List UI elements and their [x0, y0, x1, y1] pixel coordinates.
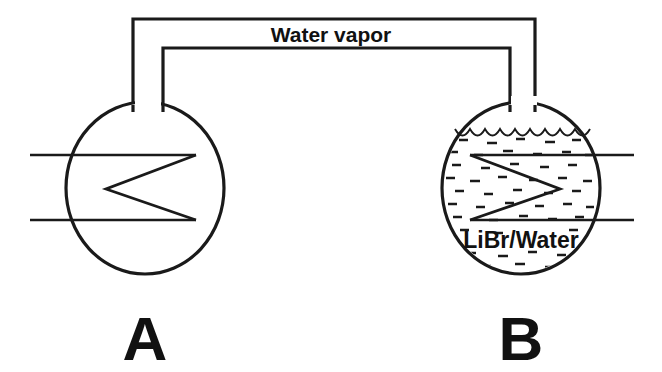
vessel-a-label: A	[123, 304, 168, 372]
vessel-b-label: B	[499, 304, 544, 372]
vapor-tube-label: Water vapor	[271, 23, 392, 46]
solution-label: LiBr/Water	[463, 227, 578, 253]
vessel-a	[30, 96, 224, 274]
vessel-a-bulb	[66, 102, 224, 274]
vapor-tube-inner-wall	[163, 48, 510, 108]
absorption-pair-schematic: LiBr/Water Water vapor A B	[0, 0, 662, 372]
diagram-canvas: LiBr/Water Water vapor A B	[0, 0, 662, 372]
vessel-b-neck-mask	[511, 96, 537, 112]
vessel-a-neck-mask	[135, 96, 161, 112]
vessel-b: LiBr/Water	[442, 96, 634, 274]
